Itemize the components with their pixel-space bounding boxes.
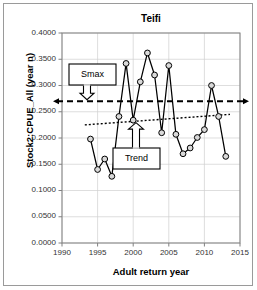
x-tick-label: 2010 — [189, 248, 219, 257]
data-point-marker — [216, 114, 222, 120]
data-point-marker — [95, 167, 101, 173]
y-tick-label: 0.2500 — [16, 106, 56, 115]
data-point-marker — [194, 135, 200, 141]
data-point-marker — [209, 83, 215, 89]
chart-figure: Teifi Stock2:CPUE_All (year n) Adult ret… — [0, 0, 257, 290]
y-tick-label: 0.1500 — [16, 159, 56, 168]
smax-arrow-left — [53, 98, 59, 104]
data-point-marker — [145, 50, 151, 56]
x-tick-label: 1995 — [83, 248, 113, 257]
data-point-marker — [166, 63, 172, 69]
data-point-marker — [123, 61, 129, 67]
x-tick-label: 2005 — [154, 248, 184, 257]
data-point-marker — [130, 117, 136, 123]
data-point-marker — [109, 173, 115, 179]
y-tick-label: 0.3500 — [16, 54, 56, 63]
x-tick-label: 2015 — [225, 248, 255, 257]
x-tick-label: 2000 — [118, 248, 148, 257]
data-point-marker — [116, 114, 122, 120]
y-tick-label: 0.4000 — [16, 28, 56, 37]
trend-callout-label: Trend — [113, 153, 160, 163]
y-tick-label: 0.0500 — [16, 211, 56, 220]
y-tick-label: 0.2000 — [16, 133, 56, 142]
data-point-marker — [180, 151, 186, 157]
data-point-marker — [152, 72, 158, 78]
data-point-marker — [202, 127, 208, 133]
smax-arrow-right — [243, 98, 249, 104]
data-point-marker — [187, 145, 193, 151]
data-point-marker — [88, 136, 94, 142]
data-point-marker — [137, 79, 143, 85]
data-point-marker — [159, 130, 165, 136]
plot-canvas — [0, 0, 257, 290]
smax-callout-label: Smax — [69, 69, 116, 79]
data-point-marker — [102, 156, 108, 162]
y-tick-label: 0.0000 — [16, 238, 56, 247]
x-tick-label: 1990 — [47, 248, 77, 257]
y-tick-label: 0.1000 — [16, 185, 56, 194]
data-point-marker — [223, 153, 229, 159]
y-tick-label: 0.3000 — [16, 80, 56, 89]
data-point-marker — [173, 131, 179, 137]
